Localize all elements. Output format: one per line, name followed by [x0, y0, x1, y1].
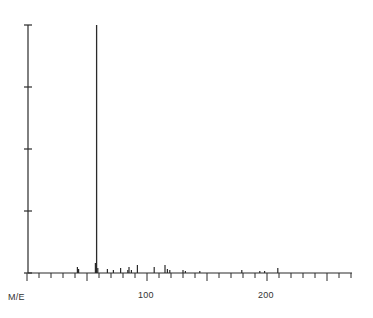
mass-spectrum-plot — [0, 0, 373, 318]
x-tick-label-100: 100 — [138, 290, 154, 300]
x-axis-label: M/E — [8, 292, 25, 302]
x-tick-label-200: 200 — [258, 290, 274, 300]
